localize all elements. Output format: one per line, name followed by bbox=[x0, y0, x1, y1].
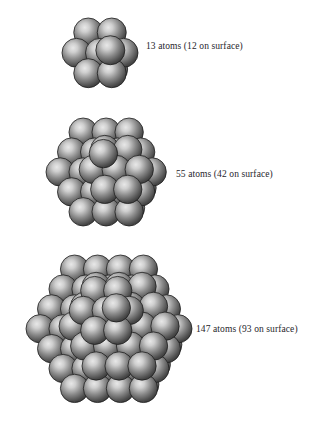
atom-sphere bbox=[96, 36, 125, 65]
cluster-55-atoms bbox=[46, 118, 168, 226]
figure-canvas: 13 atoms (12 on surface) 55 atoms (42 on… bbox=[0, 0, 324, 435]
atom-sphere bbox=[102, 294, 130, 322]
atom-sphere bbox=[114, 175, 142, 203]
cluster-render bbox=[62, 18, 138, 88]
cluster-13-label: 13 atoms (12 on surface) bbox=[146, 41, 243, 52]
cluster-55-label: 55 atoms (42 on surface) bbox=[176, 169, 273, 180]
atom-sphere bbox=[89, 139, 117, 167]
atom-sphere bbox=[128, 352, 156, 380]
cluster-147-atoms bbox=[26, 255, 192, 420]
cluster-147-label: 147 atoms (93 on surface) bbox=[196, 324, 298, 335]
cluster-render bbox=[26, 255, 192, 420]
cluster-render bbox=[46, 118, 168, 226]
cluster-13-atoms bbox=[62, 18, 138, 88]
